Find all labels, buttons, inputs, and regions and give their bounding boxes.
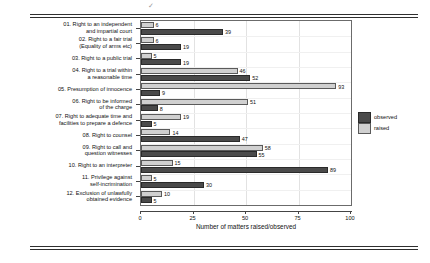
plot-wrapper: 01. Right to an independent and impartia… (22, 20, 422, 242)
bar-value-label: 8 (160, 106, 163, 112)
bar-chart: Fair trial matter 01. Right to an indepe… (8, 20, 422, 242)
x-tick-label: 0 (138, 215, 141, 221)
legend-swatch-raised (358, 123, 371, 134)
bar-raised (141, 68, 238, 74)
bar-raised (141, 191, 162, 197)
bar-value-label: 10 (164, 191, 170, 197)
x-axis: 0255075100 (140, 211, 352, 212)
bar-raised (141, 83, 336, 89)
bar-value-label: 93 (338, 84, 344, 90)
row-separator (141, 174, 351, 175)
bar-observed (141, 121, 152, 127)
bar-value-label: 9 (162, 90, 165, 96)
x-tick-label: 100 (345, 215, 354, 221)
row-separator (141, 190, 351, 191)
bar-raised (141, 129, 170, 135)
bar-observed (141, 182, 204, 188)
gridline (351, 21, 352, 205)
bar-value-label: 19 (183, 114, 189, 120)
category-label: 06. Right to be informed of the charge (72, 98, 132, 111)
x-tick-mark (350, 211, 351, 214)
bar-raised (141, 22, 154, 28)
bar-observed (141, 75, 250, 81)
legend-swatch-observed (358, 112, 371, 123)
bar-value-label: 6 (156, 38, 159, 44)
bar-value-label: 52 (252, 75, 258, 81)
category-label: 08. Right to counsel (83, 132, 132, 139)
bar-observed (141, 136, 240, 142)
bar-value-label: 19 (183, 60, 189, 66)
category-label: 05. Presumption of innocence (58, 86, 132, 93)
bottom-rule-line-1 (30, 246, 418, 247)
row-separator (141, 159, 351, 160)
bar-value-label: 47 (242, 136, 248, 142)
category-axis: 01. Right to an independent and impartia… (22, 20, 136, 206)
bar-value-label: 14 (172, 130, 178, 136)
bar-value-label: 55 (259, 152, 265, 158)
bar-value-label: 39 (225, 29, 231, 35)
bar-value-label: 30 (206, 182, 212, 188)
x-tick-mark (193, 211, 194, 214)
legend-label-raised: raised (374, 123, 389, 134)
category-label: 12. Exclusion of unlawfully obtained evi… (66, 190, 132, 203)
bar-value-label: 5 (154, 176, 157, 182)
bar-value-label: 89 (330, 167, 336, 173)
top-rule-line-2 (30, 17, 418, 18)
bar-value-label: 5 (154, 53, 157, 59)
bar-value-label: 6 (156, 22, 159, 28)
x-tick-mark (298, 211, 299, 214)
row-separator (141, 36, 351, 37)
bar-raised (141, 160, 173, 166)
bar-raised (141, 175, 152, 181)
figure: ✓ Fair trial matter 01. Right to an inde… (0, 0, 430, 263)
bar-observed (141, 90, 160, 96)
top-rule-line-1 (30, 14, 418, 15)
plot-panel: 6396195194652939518195144758551589530105 (140, 20, 352, 206)
bar-value-label: 58 (265, 145, 271, 151)
category-label: 04. Right to a trial within a reasonable… (72, 67, 132, 80)
bar-observed (141, 44, 181, 50)
bar-value-label: 5 (154, 121, 157, 127)
bar-observed (141, 167, 328, 173)
category-label: 11. Privilege against self-incrimination (82, 174, 132, 187)
bar-observed (141, 151, 257, 157)
bar-value-label: 19 (183, 44, 189, 50)
legend-label-observed: observed (374, 112, 397, 123)
bar-observed (141, 29, 223, 35)
bar-raised (141, 53, 152, 59)
category-label: 10. Right to an interpreter (69, 162, 132, 169)
bar-raised (141, 37, 154, 43)
bar-observed (141, 197, 152, 203)
bar-raised (141, 145, 263, 151)
bottom-rule-line-2 (30, 249, 418, 250)
category-label: 02. Right to a fair trial (Equality of a… (79, 36, 132, 49)
category-label: 09. Right to call and question witnesses (83, 144, 132, 157)
x-tick-label: 25 (189, 215, 195, 221)
scan-artifact: ✓ (148, 2, 158, 10)
bar-raised (141, 114, 181, 120)
x-axis-title: Number of matters raised/observed (140, 223, 352, 230)
x-tick-mark (245, 211, 246, 214)
bar-value-label: 15 (175, 160, 181, 166)
row-separator (141, 52, 351, 53)
category-label: 01. Right to an independent and impartia… (63, 21, 132, 34)
bar-value-label: 5 (154, 198, 157, 204)
bar-observed (141, 59, 181, 65)
x-tick-label: 50 (242, 215, 248, 221)
bar-raised (141, 99, 248, 105)
bar-value-label: 46 (240, 68, 246, 74)
bar-value-label: 51 (250, 99, 256, 105)
category-label: 03. Right to a public trial (72, 55, 132, 62)
category-label: 07. Right to adequate time and facilitie… (55, 113, 132, 126)
bar-observed (141, 105, 158, 111)
x-tick-label: 75 (294, 215, 300, 221)
x-tick-mark (140, 211, 141, 214)
